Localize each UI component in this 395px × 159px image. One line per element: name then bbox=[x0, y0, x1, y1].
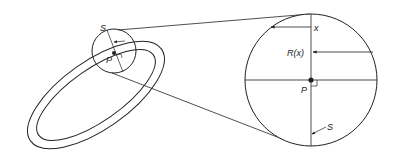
big-point-p bbox=[308, 77, 313, 82]
big-label-x: x bbox=[313, 23, 319, 33]
small-label-p: P bbox=[106, 55, 112, 65]
big-label-rx: R(x) bbox=[287, 48, 304, 58]
big-label-s: S bbox=[327, 122, 333, 132]
big-detail-circle-group: x R(x) P S bbox=[245, 14, 377, 146]
small-detail-circle-group: S P bbox=[92, 23, 136, 73]
small-point-p bbox=[112, 51, 116, 55]
small-arrow bbox=[114, 41, 125, 42]
small-section-line bbox=[107, 30, 123, 72]
big-label-p: P bbox=[301, 85, 307, 95]
small-label-s: S bbox=[100, 23, 106, 33]
diagram-canvas: S P x R(x) P S bbox=[0, 0, 395, 159]
